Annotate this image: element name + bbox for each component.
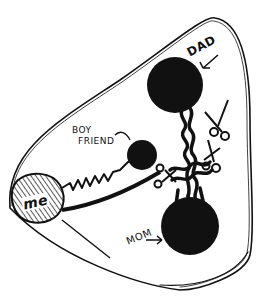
- label-boyfriend-line2: FRIEND: [78, 137, 114, 146]
- connection-dad-mom: [170, 108, 212, 206]
- scissors-icon: [203, 140, 221, 172]
- diagram-canvas: [0, 0, 264, 298]
- node-boyfriend: [127, 140, 157, 170]
- dad-arrow-icon: [200, 55, 218, 68]
- connection-me-boyfriend: [62, 160, 135, 190]
- scissors-icon: [205, 100, 229, 140]
- boyfriend-arrow-icon: [115, 132, 130, 140]
- family-diagram: DAD BOY FRIEND me MOM: [0, 0, 264, 298]
- connection-me-mom: [62, 172, 160, 210]
- node-dad: [147, 57, 203, 113]
- label-boyfriend-line1: BOY: [72, 126, 92, 135]
- node-mom: [161, 197, 219, 255]
